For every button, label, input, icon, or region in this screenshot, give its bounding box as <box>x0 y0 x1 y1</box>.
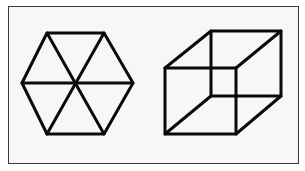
cube-edge-top-right <box>236 31 281 68</box>
figure-canvas <box>0 0 305 171</box>
cube-edge-bottom-left <box>165 96 211 134</box>
cube-figure <box>165 31 281 134</box>
hexagon-figure <box>22 33 133 134</box>
cube-edge-bottom-right <box>236 96 281 134</box>
cube-edge-top-left <box>165 31 211 68</box>
